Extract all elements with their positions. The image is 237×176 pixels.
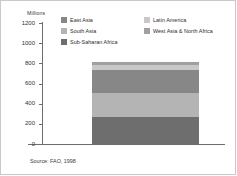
y-tick-mark <box>39 124 42 125</box>
chart-frame: Millions East AsiaSouth AsiaSub-Saharan … <box>0 0 236 175</box>
y-tick-label: 1200 <box>9 20 35 27</box>
y-tick-mark <box>39 23 42 24</box>
y-tick-label: 200 <box>9 120 35 127</box>
stacked-bar[interactable] <box>92 62 199 144</box>
legend-swatch-icon <box>61 17 67 23</box>
legend-label: East Asia <box>70 17 93 23</box>
source-note: Source: FAO, 1998 <box>30 158 76 164</box>
bar-segment[interactable] <box>92 70 199 92</box>
y-tick-label: 400 <box>9 100 35 107</box>
legend-swatch-icon <box>144 17 150 23</box>
y-tick-mark <box>39 63 42 64</box>
y-tick-label: 600 <box>9 80 35 87</box>
x-axis-line <box>28 144 225 145</box>
y-tick-label: 800 <box>9 60 35 67</box>
y-tick-label: 1000 <box>9 40 35 47</box>
bar-segment[interactable] <box>92 93 199 117</box>
y-axis-unit-label: Millions <box>27 10 45 16</box>
y-tick-mark <box>39 144 42 145</box>
legend-label: Latin America <box>153 17 186 23</box>
y-tick-mark <box>39 84 42 85</box>
y-tick-label: 0 <box>9 141 35 148</box>
y-tick-mark <box>39 43 42 44</box>
y-tick-mark <box>39 104 42 105</box>
plot-area <box>43 23 208 144</box>
bar-segment[interactable] <box>92 117 199 144</box>
